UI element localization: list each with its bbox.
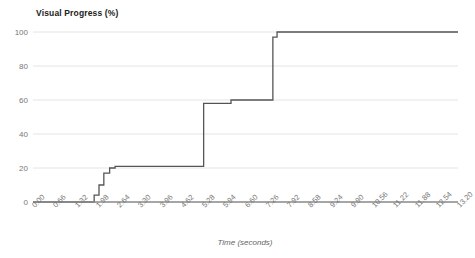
y-axis-tick-label: 80 — [19, 62, 28, 71]
x-axis-line — [33, 32, 458, 202]
x-axis-title: Time (seconds) — [0, 238, 465, 247]
chart-title: Visual Progress (%) — [36, 8, 119, 18]
y-axis-tick-label: 60 — [19, 96, 28, 105]
y-axis-tick-label: 20 — [19, 164, 28, 173]
x-axis-tick-labels: 0.000.661.321.982.643.303.964.625.285.94… — [33, 203, 458, 237]
y-axis-tick-label: 40 — [19, 130, 28, 139]
plot-area — [33, 32, 458, 202]
y-axis-tick-label: 100 — [15, 28, 28, 37]
y-axis-tick-label: 0 — [24, 198, 28, 207]
y-axis-tick-labels: 020406080100 — [0, 32, 28, 202]
